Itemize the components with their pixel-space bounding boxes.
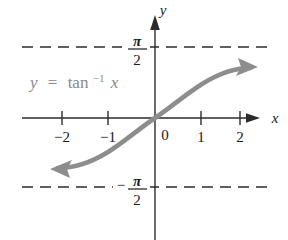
y-axis-arrowhead — [150, 15, 160, 30]
equation-exponent: −1 — [93, 72, 105, 84]
asymptote-upper-numerator: π — [133, 33, 142, 49]
x-tick-label-neg1: −1 — [100, 129, 116, 145]
asymptote-upper-denominator: 2 — [133, 52, 141, 68]
equation-text-group: y = tan −1 x — [28, 67, 119, 92]
equation-label: y = tan −1 x — [28, 67, 119, 92]
asymptote-lower-numerator: π — [133, 173, 142, 189]
x-tick-label-neg2: −2 — [54, 129, 70, 145]
x-axis-label: x — [271, 110, 279, 126]
y-axis-label: y — [158, 2, 167, 18]
x-tick-label-pos2: 2 — [236, 129, 244, 145]
asymptote-upper-label: π 2 — [122, 30, 150, 68]
equation-arg: x — [110, 73, 119, 92]
equation-equals: = — [48, 73, 58, 92]
equation-fn: tan — [68, 73, 89, 92]
x-axis-arrowhead — [246, 113, 260, 123]
graph-canvas: −2 −1 1 2 0 x y π 2 − π 2 y = ta — [0, 0, 288, 240]
x-tick-label-pos1: 1 — [197, 129, 205, 145]
asymptote-lower-label: − π 2 — [113, 170, 150, 208]
arctangent-graph-figure: −2 −1 1 2 0 x y π 2 − π 2 y = ta — [0, 0, 288, 240]
asymptote-lower-denominator: 2 — [133, 192, 141, 208]
asymptote-lower-sign: − — [117, 177, 125, 193]
equation-y: y — [28, 73, 38, 92]
origin-label: 0 — [161, 127, 169, 143]
